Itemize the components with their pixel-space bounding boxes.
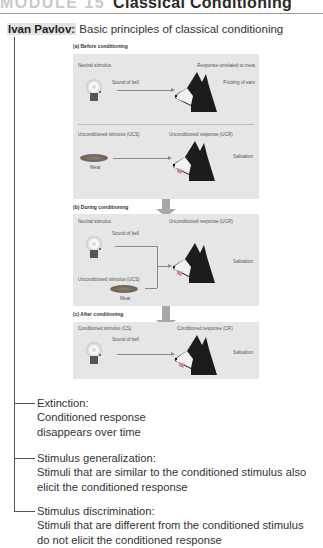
tree-trunk-line bbox=[14, 37, 15, 512]
concept-term: Stimulus discrimination: bbox=[37, 504, 304, 518]
dog-salivating-icon bbox=[173, 331, 221, 379]
module-title: Classical Conditioning bbox=[113, 0, 292, 11]
arrow-line bbox=[117, 354, 172, 355]
bell-icon bbox=[85, 341, 103, 365]
panel-b-label: (b) During conditioning bbox=[73, 204, 128, 210]
branch-discrimination bbox=[14, 511, 35, 512]
panel-a-divider bbox=[78, 124, 254, 125]
concept-desc-line: Conditioned response bbox=[37, 410, 146, 424]
dog-salivating-icon bbox=[171, 239, 219, 287]
meat-icon bbox=[80, 154, 108, 162]
topic-name: Ivan Pavlov: bbox=[7, 23, 76, 35]
topic-heading: Ivan Pavlov: Basic principles of classic… bbox=[7, 23, 283, 35]
concept-discrimination: Stimulus discrimination: Stimuli that ar… bbox=[37, 504, 304, 547]
panel-c-label: (c) After conditioning bbox=[73, 311, 123, 317]
neutral-stimulus-label: Neutral stimulus bbox=[78, 63, 111, 68]
panel-b: Neutral stimulus Unconditioned response … bbox=[73, 214, 259, 306]
sound-of-bell-label: Sound of bell bbox=[112, 80, 139, 85]
concept-term: Stimulus generalization: bbox=[37, 451, 306, 465]
concept-desc-line: do not elicit the conditioned response bbox=[37, 533, 304, 547]
bell-icon bbox=[85, 78, 103, 102]
module-header: MODULE 15Classical Conditioning bbox=[0, 0, 323, 12]
arrow-line bbox=[115, 246, 157, 247]
sound-of-bell-label: Sound of bell bbox=[112, 337, 139, 342]
meat-label: Meat bbox=[90, 165, 100, 170]
meat-label: Meat bbox=[120, 296, 130, 301]
neutral-stimulus-label: Neutral stimulus bbox=[78, 219, 111, 224]
dog-icon bbox=[173, 68, 221, 116]
branch-extinction bbox=[14, 403, 35, 404]
ucs-label: Unconditioned stimulus (UCS) bbox=[78, 277, 140, 282]
topic-subtitle: Basic principles of classical conditioni… bbox=[79, 23, 283, 35]
sound-of-bell-label: Sound of bell bbox=[112, 231, 139, 236]
concept-term: Extinction: bbox=[37, 396, 146, 410]
concept-generalization: Stimulus generalization: Stimuli that ar… bbox=[37, 451, 306, 494]
arrow-line bbox=[113, 158, 169, 159]
cs-label: Conditioned stimulus (CS) bbox=[78, 326, 131, 331]
meat-icon bbox=[110, 285, 138, 293]
module-number: MODULE 15 bbox=[0, 0, 105, 11]
arrow-line bbox=[145, 288, 157, 289]
pricking-of-ears-label: Pricking of ears bbox=[223, 80, 255, 85]
panel-a: Neutral stimulus Response unrelated to m… bbox=[73, 54, 259, 199]
ucs-label: Unconditioned stimulus (UCS) bbox=[78, 132, 140, 137]
salivation-label: Salivation bbox=[233, 154, 253, 159]
merge-line bbox=[157, 246, 158, 288]
arrow-line bbox=[117, 90, 172, 91]
bell-icon bbox=[85, 235, 103, 259]
concept-extinction: Extinction: Conditioned response disappe… bbox=[37, 396, 146, 439]
panel-c: Conditioned stimulus (CS) Conditioned re… bbox=[73, 322, 259, 379]
concept-desc-line: Stimuli that are similar to the conditio… bbox=[37, 465, 306, 479]
branch-generalization bbox=[14, 458, 35, 459]
salivation-label: Salivation bbox=[233, 259, 253, 264]
panel-a-label: (a) Before conditioning bbox=[73, 43, 128, 49]
ucr-label: Unconditioned response (UCR) bbox=[169, 219, 233, 224]
salivation-label: Salivation bbox=[233, 350, 253, 355]
dog-salivating-icon bbox=[171, 137, 219, 185]
header-rule bbox=[0, 13, 323, 14]
concept-desc-line: elicit the conditioned response bbox=[37, 480, 306, 494]
concept-desc-line: Stimuli that are different from the cond… bbox=[37, 518, 304, 532]
concept-desc-line: disappears over time bbox=[37, 425, 146, 439]
